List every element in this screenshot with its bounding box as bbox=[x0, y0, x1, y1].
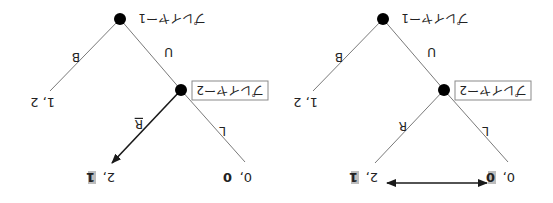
game-tree-figure: プレイヤー1 プレイヤー2 B U R L 1, 2 2, 1 0, 0 bbox=[0, 0, 553, 203]
tree-left: プレイヤー1 プレイヤー2 B U R L 1, 2 2, 1 0, 0 bbox=[30, 11, 268, 185]
edge-l bbox=[181, 90, 245, 162]
player1-node bbox=[114, 13, 126, 25]
payoff-l-p2: 0 bbox=[486, 170, 495, 185]
player1-node bbox=[377, 13, 389, 25]
payoff-r-p1: 2, bbox=[366, 170, 378, 185]
payoff-r: 2, 1 bbox=[86, 170, 115, 185]
edge-b bbox=[50, 19, 120, 91]
edge-r bbox=[375, 90, 444, 163]
payoff-r-p1: 2, bbox=[103, 170, 115, 185]
payoff-b: 1, 2 bbox=[293, 95, 318, 110]
payoff-r: 2, 1 bbox=[349, 170, 378, 185]
payoff-r-p2: 1 bbox=[86, 170, 95, 185]
payoff-r-p2: 1 bbox=[349, 170, 358, 185]
action-r: R bbox=[399, 119, 407, 133]
action-l: L bbox=[219, 124, 226, 138]
payoff-l-p1: 0, bbox=[240, 170, 252, 185]
edge-r-arrow bbox=[112, 90, 181, 163]
payoff-l: 0, 0 bbox=[223, 170, 252, 185]
action-b: B bbox=[72, 50, 80, 64]
payoff-l-p1: 0, bbox=[503, 170, 515, 185]
action-l: L bbox=[482, 124, 489, 138]
action-u: U bbox=[427, 45, 436, 59]
action-u: U bbox=[164, 45, 173, 59]
player2-label: プレイヤー2 bbox=[196, 83, 264, 97]
action-b: B bbox=[335, 50, 343, 64]
edge-l bbox=[444, 90, 508, 162]
payoff-l-p2: 0 bbox=[223, 170, 232, 185]
payoff-b: 1, 2 bbox=[30, 95, 55, 110]
action-r: R bbox=[135, 117, 143, 131]
player1-label: プレイヤー1 bbox=[138, 11, 206, 25]
player1-label: プレイヤー1 bbox=[401, 11, 469, 25]
tree-right: プレイヤー1 プレイヤー2 B U R L 1, 2 2, 1 0, 0 bbox=[293, 11, 531, 185]
player2-node bbox=[175, 84, 187, 96]
player2-label: プレイヤー2 bbox=[459, 83, 527, 97]
player2-node bbox=[438, 84, 450, 96]
payoff-l: 0, 0 bbox=[486, 170, 515, 185]
edge-b bbox=[313, 19, 383, 91]
